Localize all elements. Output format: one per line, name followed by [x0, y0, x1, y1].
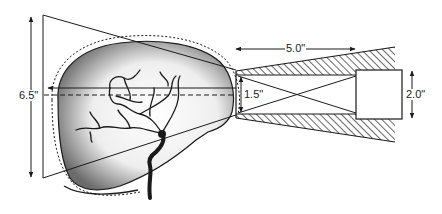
aperture-height-label: 1.5" — [243, 89, 264, 100]
detector-height-label: 2.0" — [405, 89, 426, 100]
detector-box — [356, 70, 402, 119]
field-height-label: 6.5" — [18, 90, 39, 101]
diagram-svg — [0, 0, 442, 214]
collimator-length-label: 5.0" — [285, 43, 306, 54]
diagram-canvas: 6.5" 5.0" 1.5" 2.0" — [0, 0, 442, 214]
carotid-bulb — [158, 130, 166, 138]
